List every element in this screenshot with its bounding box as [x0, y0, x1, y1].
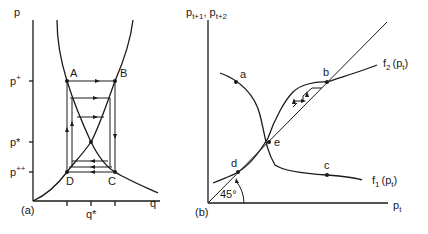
point-b: [325, 80, 329, 84]
point-e: [267, 140, 271, 144]
label-q-star: q*: [86, 208, 97, 220]
arrow-right-3: [93, 115, 98, 119]
panel-b-tag: (b): [195, 206, 208, 218]
label-c: c: [324, 159, 330, 171]
label-B: B: [120, 67, 127, 79]
label-C: C: [108, 175, 116, 187]
angle-arc: [236, 181, 244, 203]
label-a: a: [240, 68, 247, 80]
a-y-label: p: [14, 6, 20, 18]
point-d: [236, 170, 240, 174]
label-p-star: p*: [10, 136, 21, 148]
a-x-label: q: [150, 197, 156, 209]
arrow-up-2: [70, 121, 74, 126]
arrow-right-1: [95, 79, 100, 83]
b-y-label: pt+1,pt+2: [186, 6, 228, 21]
arrow-up-1: [65, 127, 69, 132]
panel-b: pt+1,pt+2 pt 45° f2(pt) f1(pt) a b c d e…: [186, 6, 408, 218]
arrow-left-3: [90, 170, 95, 174]
point-equilibrium: [89, 140, 93, 144]
arrow-down-1: [113, 134, 117, 139]
arrow-right-2: [93, 96, 98, 100]
label-d: d: [231, 157, 237, 169]
point-A: [65, 79, 69, 83]
label-f1: f1(pt): [372, 174, 397, 189]
b-x-label: pt: [393, 199, 402, 214]
arrow-left-2: [90, 165, 95, 169]
point-B: [113, 79, 117, 83]
label-e: e: [274, 136, 280, 148]
label-A: A: [70, 67, 78, 79]
label-b: b: [323, 66, 329, 78]
panel-a: p q p+ p* p++ q* A B C D (a): [10, 6, 160, 220]
label-f2: f2(pt): [383, 57, 408, 72]
point-D: [65, 170, 69, 174]
label-D: D: [66, 175, 74, 187]
label-p-plus-plus: p++: [10, 164, 26, 178]
panel-a-tag: (a): [21, 204, 34, 216]
label-p-plus: p+: [10, 73, 21, 87]
figure-canvas: p q p+ p* p++ q* A B C D (a): [0, 0, 428, 234]
angle-arrow: [235, 178, 239, 183]
arrow-left-1: [90, 159, 95, 163]
angle-label: 45°: [220, 188, 237, 200]
line-45-degree: [208, 22, 387, 203]
point-c: [325, 173, 329, 177]
point-C: [113, 170, 117, 174]
point-a: [234, 80, 238, 84]
curve-f1: [220, 73, 362, 180]
